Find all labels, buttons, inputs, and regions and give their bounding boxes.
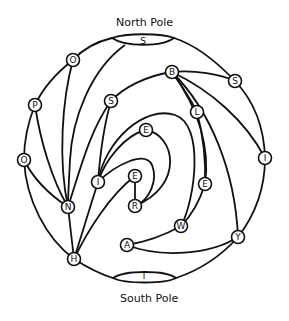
edge-N-H bbox=[68, 207, 74, 259]
svg-text:S: S bbox=[108, 96, 114, 106]
outer-edge-south-Y bbox=[176, 237, 238, 278]
edge-O-N bbox=[62, 60, 73, 207]
edges bbox=[24, 34, 265, 282]
edge-I-H bbox=[74, 182, 98, 259]
node-e-inner: E bbox=[129, 170, 142, 183]
outer-edge-P-O bbox=[24, 105, 35, 160]
edge-S-N bbox=[68, 101, 111, 207]
svg-text:W: W bbox=[177, 221, 186, 231]
outer-edge-S-north bbox=[174, 38, 235, 81]
svg-text:I: I bbox=[264, 153, 267, 163]
edge-W-A bbox=[127, 226, 181, 245]
svg-text:O: O bbox=[20, 155, 27, 165]
edge-O-N-2 bbox=[24, 160, 68, 207]
node-e-top: E bbox=[140, 124, 153, 137]
svg-text:I: I bbox=[97, 177, 100, 187]
svg-text:Y: Y bbox=[234, 232, 241, 242]
svg-text:A: A bbox=[124, 240, 131, 250]
svg-text:R: R bbox=[132, 201, 138, 211]
svg-text:S: S bbox=[232, 76, 238, 86]
svg-text:P: P bbox=[32, 100, 38, 110]
node-r: R bbox=[129, 200, 142, 213]
node-b: B bbox=[166, 66, 179, 79]
edge-S-I bbox=[98, 101, 111, 182]
node-e-right: E bbox=[199, 178, 212, 191]
node-p: P bbox=[29, 99, 42, 112]
node-s-right: S bbox=[229, 75, 242, 88]
south-pole-node-label: T bbox=[140, 271, 147, 281]
sphere-graph-diagram: North Pole South Pole bbox=[0, 0, 289, 321]
node-h: H bbox=[68, 253, 81, 266]
svg-text:E: E bbox=[132, 171, 138, 181]
outer-edge-Y-I bbox=[238, 158, 265, 237]
node-i-right: I bbox=[259, 152, 272, 165]
node-o-top: O bbox=[67, 54, 80, 67]
svg-text:B: B bbox=[169, 67, 175, 77]
svg-text:O: O bbox=[69, 55, 76, 65]
edge-A-Y bbox=[127, 237, 238, 253]
node-s-inner: S bbox=[105, 95, 118, 108]
south-pole-label: South Pole bbox=[120, 292, 178, 305]
node-o-left: O bbox=[18, 154, 31, 167]
edge-B-Sinner bbox=[111, 72, 172, 101]
node-w: W bbox=[175, 220, 188, 233]
svg-text:E: E bbox=[143, 125, 149, 135]
north-pole-node-label: S bbox=[140, 36, 146, 46]
node-i-inner: I bbox=[92, 176, 105, 189]
svg-text:N: N bbox=[65, 202, 72, 212]
north-pole-label: North Pole bbox=[116, 16, 173, 29]
outer-edge-I-S bbox=[235, 81, 265, 158]
svg-text:H: H bbox=[71, 254, 78, 264]
svg-text:E: E bbox=[202, 179, 208, 189]
node-y: Y bbox=[232, 231, 245, 244]
node-l: L bbox=[191, 106, 204, 119]
svg-text:L: L bbox=[194, 107, 199, 117]
node-n: N bbox=[62, 201, 75, 214]
node-a: A bbox=[121, 239, 134, 252]
